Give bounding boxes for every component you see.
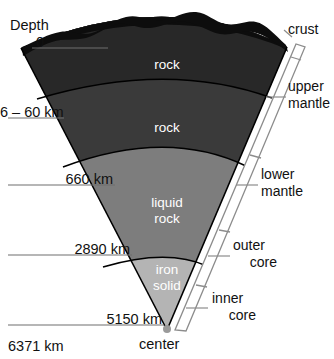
- bracket-label-inner-core-line2: core: [212, 308, 256, 324]
- layer-label-outer-core-line2: rock: [117, 211, 217, 226]
- layer-label-inner-core-line1: iron: [122, 262, 212, 277]
- layer-label-outer-core-line1: liquid: [117, 195, 217, 210]
- depth-label-upper-mantle-base: 660 km: [0, 171, 113, 187]
- bracket-label-outer-core-line1: outer: [233, 238, 265, 254]
- bracket-label-upper-mantle-line2: mantle: [288, 96, 330, 112]
- depth-label-lower-mantle-base: 2890 km: [0, 241, 130, 257]
- layer-label-inner-core-line2: solid: [122, 278, 212, 293]
- bracket-label-outer-core-line2: core: [233, 255, 277, 271]
- layer-label-mantle-rock: rock: [117, 120, 217, 135]
- bracket-label-upper-mantle-line1: upper: [288, 79, 324, 95]
- bracket-label-inner-core-line1: inner: [212, 291, 243, 307]
- center-point-dot: [163, 325, 171, 333]
- depth-label-surface: 0: [0, 34, 44, 50]
- depth-label-earth-radius: 6371 km: [8, 338, 88, 354]
- bracket-label-lower-mantle-line1: lower: [261, 167, 294, 183]
- depth-label-outer-core-base: 5150 km: [0, 311, 162, 327]
- depth-axis-title: Depth: [10, 17, 49, 33]
- earth-interior-diagram: Depth 0 6 – 60 km 660 km 2890 km 5150 km…: [0, 0, 334, 359]
- layer-label-crust-rock: rock: [117, 57, 217, 72]
- bracket-label-lower-mantle-line2: mantle: [261, 184, 303, 200]
- depth-label-crust-base: 6 – 60 km: [0, 104, 62, 120]
- bracket-label-crust: crust: [288, 22, 318, 38]
- center-label: center: [139, 336, 179, 352]
